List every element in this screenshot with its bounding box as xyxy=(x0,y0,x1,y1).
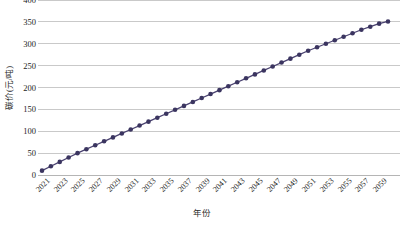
x-tick-label: 2033 xyxy=(141,177,158,194)
data-point-marker xyxy=(75,151,80,156)
x-tick-label: 2053 xyxy=(319,177,336,194)
data-point-marker xyxy=(279,60,284,65)
data-point-marker xyxy=(253,72,258,77)
data-point-marker xyxy=(128,127,133,132)
data-point-marker xyxy=(57,160,62,165)
data-point-marker xyxy=(235,80,240,85)
y-tick-label: 150 xyxy=(14,105,36,114)
data-point-marker xyxy=(199,96,204,101)
x-tick-label: 2035 xyxy=(159,177,176,194)
series-line xyxy=(42,21,388,170)
y-tick-label: 300 xyxy=(14,40,36,49)
plot-area xyxy=(38,0,400,175)
y-tick-label: 350 xyxy=(14,18,36,27)
data-point-marker xyxy=(261,68,266,73)
data-point-marker xyxy=(306,48,311,53)
x-axis-tick-labels: 2021202320252027202920312033203520372039… xyxy=(38,175,400,207)
data-point-marker xyxy=(137,123,142,128)
data-point-marker xyxy=(315,45,320,50)
data-point-marker xyxy=(182,104,187,109)
data-point-marker xyxy=(40,168,45,173)
data-point-marker xyxy=(350,31,355,36)
data-point-marker xyxy=(146,119,151,124)
data-point-marker xyxy=(288,56,293,61)
data-point-marker xyxy=(93,143,98,148)
y-axis-tick-labels: 050100150200250300350400 xyxy=(12,0,36,175)
x-tick-label: 2029 xyxy=(106,177,123,194)
data-point-marker xyxy=(49,164,54,169)
data-point-marker xyxy=(191,100,196,105)
x-tick-label: 2057 xyxy=(354,177,371,194)
x-tick-label: 2041 xyxy=(212,177,229,194)
x-axis-title: 年份 xyxy=(0,206,403,218)
x-tick-label: 2055 xyxy=(336,177,353,194)
data-point-marker xyxy=(332,38,337,43)
x-tick-label: 2023 xyxy=(52,177,69,194)
carbon-price-line-chart: 碳价(元/吨) 050100150200250300350400 2021202… xyxy=(0,0,403,228)
data-point-marker xyxy=(226,84,231,89)
x-tick-label: 2049 xyxy=(283,177,300,194)
data-point-marker xyxy=(359,27,364,32)
x-tick-label: 2037 xyxy=(177,177,194,194)
x-tick-label: 2047 xyxy=(265,177,282,194)
x-tick-label: 2027 xyxy=(88,177,105,194)
x-tick-label: 2045 xyxy=(248,177,265,194)
series-line-carbon-price xyxy=(38,0,400,175)
data-point-marker xyxy=(324,41,329,46)
data-point-marker xyxy=(297,52,302,57)
data-point-marker xyxy=(244,76,249,81)
data-point-marker xyxy=(386,19,391,24)
y-tick-label: 200 xyxy=(14,83,36,92)
data-point-marker xyxy=(173,108,178,113)
data-point-marker xyxy=(208,92,213,97)
x-tick-label: 2059 xyxy=(372,177,389,194)
y-tick-label: 250 xyxy=(14,61,36,70)
data-point-marker xyxy=(84,147,89,152)
x-tick-label: 2025 xyxy=(70,177,87,194)
y-tick-label: 50 xyxy=(14,149,36,158)
x-tick-label: 2051 xyxy=(301,177,318,194)
data-point-marker xyxy=(270,64,275,69)
x-tick-label: 2043 xyxy=(230,177,247,194)
data-point-marker xyxy=(111,135,116,140)
data-point-marker xyxy=(155,115,160,120)
y-tick-label: 400 xyxy=(14,0,36,4)
y-tick-label: 0 xyxy=(14,171,36,180)
data-point-marker xyxy=(164,111,169,116)
data-point-marker xyxy=(377,21,382,26)
y-tick-label: 100 xyxy=(14,127,36,136)
x-tick-label: 2031 xyxy=(123,177,140,194)
data-point-marker xyxy=(368,24,373,29)
x-tick-label: 2039 xyxy=(194,177,211,194)
data-point-marker xyxy=(120,131,125,136)
data-point-marker xyxy=(217,88,222,93)
data-point-marker xyxy=(341,34,346,39)
data-point-marker xyxy=(66,155,71,160)
x-tick-label: 2021 xyxy=(35,177,52,194)
data-point-marker xyxy=(102,139,107,144)
